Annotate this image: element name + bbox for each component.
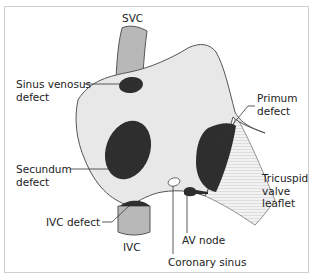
label-secundum-defect: Secundum defect [16,163,72,188]
label-sinus-venosus-defect: Sinus venosus defect [16,78,91,103]
label-ivc-defect: IVC defect [46,216,100,229]
ivc-vessel [118,206,150,235]
label-svc: SVC [122,12,143,25]
label-primum-defect: Primum defect [257,92,298,117]
label-tricuspid-valve-leaflet: Tricuspid valve leaflet [262,172,308,210]
heart-diagram [0,0,316,280]
label-coronary-sinus: Coronary sinus [168,256,246,269]
label-ivc: IVC [123,241,141,254]
label-av-node: AV node [182,234,225,247]
